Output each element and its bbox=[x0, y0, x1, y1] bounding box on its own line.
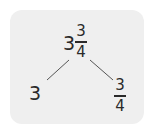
root-fraction: 3 4 bbox=[75, 24, 87, 60]
left-branch-line bbox=[47, 60, 69, 80]
right-numerator: 3 bbox=[115, 78, 125, 93]
root-denominator: 4 bbox=[76, 45, 86, 60]
root-whole: 3 bbox=[63, 34, 75, 53]
right-branch-line bbox=[90, 60, 113, 80]
left-part-whole: 3 bbox=[29, 84, 41, 103]
right-denominator: 4 bbox=[115, 99, 125, 114]
right-part-fraction: 3 4 bbox=[114, 78, 126, 114]
root-numerator: 3 bbox=[76, 24, 86, 39]
bond-lines bbox=[0, 0, 149, 129]
